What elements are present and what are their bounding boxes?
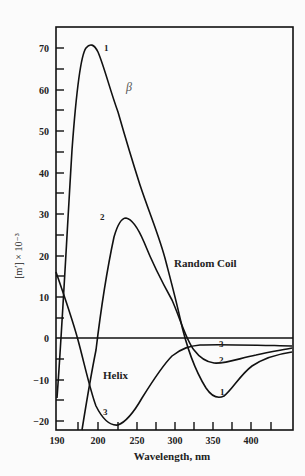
x-tick-labels: 190 200 250 300 350 400: [50, 435, 259, 446]
y-tick-neg10: −10: [33, 375, 49, 386]
y-tick-20: 20: [39, 251, 49, 262]
curve-1-label-right: 1: [220, 387, 225, 397]
x-tick-400: 400: [244, 435, 259, 446]
y-tick-50: 50: [39, 126, 49, 137]
y-tick-40: 40: [39, 168, 49, 179]
x-tick-250: 250: [130, 435, 145, 446]
x-axis-title: Wavelength, nm: [134, 450, 210, 462]
random-coil-label: Random Coil: [174, 257, 237, 269]
x-tick-200: 200: [91, 435, 106, 446]
x-tick-190: 190: [50, 435, 65, 446]
y-tick-70: 70: [39, 43, 49, 54]
y-tick-30: 30: [39, 209, 49, 220]
curve-2-label: 2: [100, 212, 105, 222]
y-tick-labels: 70 60 50 40 30 20 10 0 −10 −20: [33, 43, 49, 427]
curve-1-label: 1: [104, 43, 109, 53]
x-tick-350: 350: [206, 435, 221, 446]
y-tick-10: 10: [39, 292, 49, 303]
helix-label: Helix: [103, 369, 129, 381]
y-tick-neg20: −20: [33, 416, 49, 427]
cd-spectrum-chart: 70 60 50 40 30 20 10 0 −10 −20 190 200 2…: [0, 0, 305, 476]
x-ticks: [78, 422, 271, 430]
beta-label: β: [125, 80, 132, 94]
curve-3-label-right: 3: [219, 339, 224, 349]
x-tick-300: 300: [168, 435, 183, 446]
curve-2-label-right: 2: [219, 355, 224, 365]
curve-2-random-coil: [82, 218, 292, 430]
y-tick-60: 60: [39, 85, 49, 96]
y-tick-0: 0: [44, 333, 49, 344]
curve-3-label-bottom: 3: [103, 407, 108, 417]
y-axis-title: [m′] × 10⁻³: [13, 233, 24, 279]
